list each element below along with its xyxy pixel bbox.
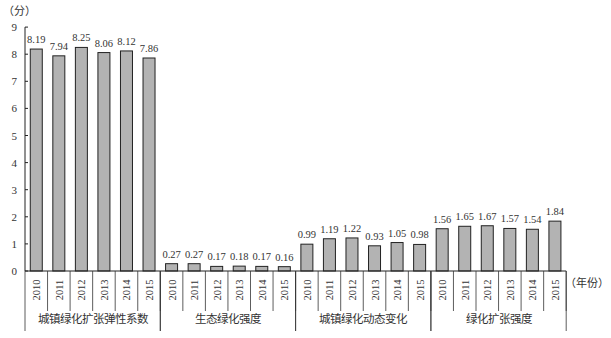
x-tick-label: 2011 <box>189 280 200 301</box>
x-tick-label: 2010 <box>31 280 42 301</box>
bar-value-label: 8.19 <box>27 34 45 45</box>
bar <box>211 266 223 271</box>
bar <box>233 266 245 271</box>
x-tick-label: 2011 <box>460 280 471 301</box>
bar <box>549 221 561 271</box>
y-tick-label: 1 <box>12 238 18 250</box>
bar <box>504 228 516 271</box>
bar-value-label: 1.84 <box>546 206 565 217</box>
x-tick-label: 2012 <box>76 280 87 301</box>
bar <box>323 239 335 271</box>
bar-value-label: 0.98 <box>410 229 428 240</box>
bar-value-label: 1.54 <box>523 214 542 225</box>
x-tick-label: 2012 <box>212 280 223 301</box>
bar-value-label: 0.27 <box>162 249 180 260</box>
bar-value-label: 1.05 <box>388 228 406 239</box>
y-tick-label: 5 <box>12 130 18 142</box>
x-tick-label: 2012 <box>347 280 358 301</box>
x-tick-label: 2013 <box>505 280 516 301</box>
bar-value-label: 1.56 <box>433 214 451 225</box>
bar-value-label: 0.93 <box>365 231 383 242</box>
bar-value-label: 0.17 <box>253 251 271 262</box>
bar <box>436 229 448 271</box>
x-tick-label: 2011 <box>54 280 65 301</box>
bar <box>301 244 313 271</box>
x-tick-label: 2014 <box>257 279 268 301</box>
x-tick-label: 2015 <box>415 280 426 301</box>
bar-value-label: 0.17 <box>207 251 225 262</box>
bar-value-label: 1.57 <box>501 213 519 224</box>
y-tick-label: 0 <box>12 265 18 277</box>
bar-value-label: 0.27 <box>185 249 203 260</box>
x-tick-label: 2011 <box>324 280 335 301</box>
bar-value-label: 8.12 <box>117 36 135 47</box>
bar <box>459 226 471 271</box>
group-label: 城镇绿化扩张弹性系数 <box>38 312 149 325</box>
x-tick-label: 2015 <box>279 280 290 301</box>
x-tick-label: 2015 <box>550 280 561 301</box>
y-tick-label: 2 <box>12 211 18 223</box>
bar-value-label: 0.18 <box>230 251 248 262</box>
bar-chart: （分） 0123456789 8.197.948.258.068.127.860… <box>0 0 611 338</box>
bar-value-label: 7.86 <box>140 43 158 54</box>
bar-value-label: 1.67 <box>478 211 496 222</box>
bar <box>346 238 358 271</box>
x-tick-label: 2015 <box>144 280 155 301</box>
bar <box>143 58 155 271</box>
bar <box>120 51 132 271</box>
y-tick-label: 9 <box>12 21 18 33</box>
bar <box>53 56 65 271</box>
bar <box>481 226 493 271</box>
x-tick-label: 2014 <box>392 279 403 301</box>
bar <box>30 49 42 271</box>
x-tick-label: 2010 <box>437 280 448 301</box>
bar <box>526 229 538 271</box>
bar <box>75 47 87 271</box>
bar <box>278 267 290 271</box>
group-label: 城镇绿化动态变化 <box>319 312 408 325</box>
y-tick-label: 8 <box>12 48 18 60</box>
x-axis: 201020112012201320142015城镇绿化扩张弹性系数201020… <box>25 271 566 331</box>
bars: 8.197.948.258.068.127.860.270.270.170.18… <box>27 32 565 271</box>
bar-value-label: 0.99 <box>298 229 316 240</box>
bar <box>256 266 268 271</box>
group-label: 生态绿化强度 <box>195 312 262 325</box>
x-tick-label: 2010 <box>302 280 313 301</box>
y-tick-label: 7 <box>12 75 18 87</box>
x-tick-label: 2013 <box>370 280 381 301</box>
y-tick-label: 6 <box>12 102 18 114</box>
y-tick-label: 4 <box>12 157 18 169</box>
y-axis: 0123456789 <box>12 21 29 277</box>
x-tick-label: 2013 <box>99 280 110 301</box>
group-label: 绿化扩张强度 <box>466 312 533 325</box>
y-tick-label: 3 <box>12 184 18 196</box>
x-tick-label: 2013 <box>234 280 245 301</box>
bar-value-label: 0.16 <box>275 252 293 263</box>
x-tick-label: 2012 <box>482 280 493 301</box>
bar <box>166 264 178 271</box>
bar <box>414 244 426 271</box>
x-tick-label: 2014 <box>527 279 538 301</box>
bar-value-label: 1.65 <box>456 211 474 222</box>
bar-value-label: 8.06 <box>95 38 113 49</box>
bar-value-label: 8.25 <box>72 32 90 43</box>
x-axis-label: （年份） <box>565 276 609 289</box>
bar-value-label: 1.22 <box>343 223 361 234</box>
bar <box>391 243 403 271</box>
x-tick-label: 2010 <box>167 280 178 301</box>
bar-value-label: 1.19 <box>320 224 338 235</box>
bar <box>188 264 200 271</box>
y-axis-label: （分） <box>3 5 36 17</box>
bar <box>369 246 381 271</box>
bar <box>98 53 110 271</box>
bar-value-label: 7.94 <box>50 41 69 52</box>
x-tick-label: 2014 <box>121 279 132 301</box>
